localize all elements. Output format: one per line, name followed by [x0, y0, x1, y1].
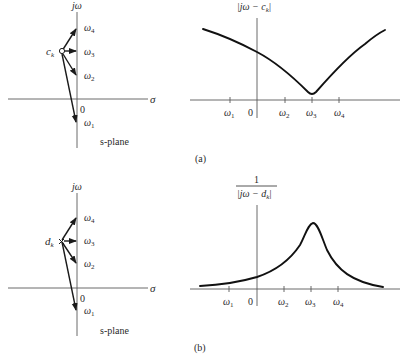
vector-to-w4	[62, 29, 76, 51]
w2-label: ω2	[84, 70, 95, 83]
xtick-w3: ω3	[305, 296, 316, 309]
zero-circle-icon	[59, 48, 64, 53]
dk-label: dk	[45, 235, 55, 249]
xtick-w3: ω3	[306, 107, 317, 120]
xtick-0: 0	[248, 107, 253, 118]
w3-label: ω3	[84, 46, 95, 59]
origin-label: 0	[80, 293, 85, 304]
vector-to-w2	[63, 54, 76, 75]
inverse-magnitude-curve	[200, 223, 383, 287]
xtick-w1: ω1	[224, 107, 235, 120]
ylabel-numerator: 1	[254, 174, 259, 185]
xtick-w2: ω2	[279, 107, 290, 120]
ylabel-magnitude: |jω − ck|	[237, 1, 271, 14]
panel-b-magnitude-plot: 1 |jω − dk| ω1 0 ω2 ω3 ω4 (b)	[190, 174, 400, 354]
panel-a-s-plane: jω σ 0 ck ω4 ω3 ω2 ω1 s-plane	[8, 0, 156, 148]
xtick-w4: ω4	[334, 107, 345, 120]
panel-a-caption: (a)	[195, 153, 206, 165]
xtick-w2: ω2	[278, 296, 289, 309]
w3-label: ω3	[84, 235, 95, 248]
panel-b-s-plane: jω σ 0 dk ω4 ω3 ω2 ω1 s-plane	[8, 181, 156, 336]
w1-label: ω1	[84, 117, 95, 130]
origin-label: 0	[80, 104, 85, 115]
w4-label: ω4	[84, 212, 95, 225]
panel-b-caption: (b)	[194, 342, 206, 354]
panel-a-magnitude-plot: |jω − ck| ω1 0 ω2 ω3 ω4 (a)	[190, 1, 400, 165]
w4-label: ω4	[84, 22, 95, 35]
pole-cross-icon	[59, 239, 64, 244]
s-plane-label: s-plane	[100, 136, 129, 147]
sigma-axis-label: σ	[150, 93, 156, 105]
figure-canvas: jω σ 0 ck ω4 ω3 ω2 ω1 s-plane |jω − ck| …	[0, 0, 402, 359]
s-plane-label: s-plane	[100, 325, 129, 336]
xtick-0: 0	[248, 296, 253, 307]
ylabel-denominator: |jω − dk|	[237, 188, 271, 201]
w1-label: ω1	[84, 305, 95, 318]
w2-label: ω2	[84, 258, 95, 271]
jw-axis-label: jω	[70, 0, 82, 11]
vector-to-w4	[62, 218, 76, 240]
magnitude-curve	[203, 29, 385, 94]
xtick-w1: ω1	[223, 296, 234, 309]
sigma-axis-label: σ	[150, 282, 156, 294]
jw-axis-label: jω	[70, 181, 82, 192]
ck-label: ck	[46, 45, 55, 59]
xtick-w4: ω4	[333, 296, 344, 309]
